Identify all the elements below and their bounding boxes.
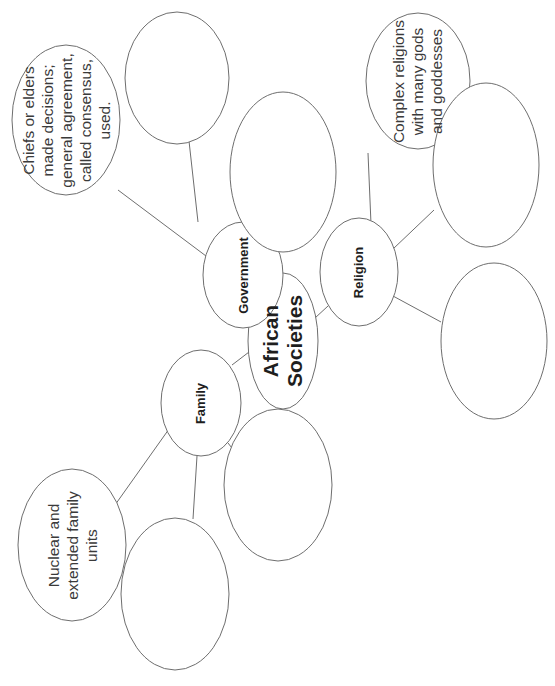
fam-detail-1-line: units bbox=[82, 491, 101, 600]
family-label: Family bbox=[194, 382, 209, 423]
center-label-line-1: African bbox=[259, 295, 283, 387]
detail-node-fam-3[interactable] bbox=[224, 409, 332, 561]
link-religion-bottom bbox=[393, 296, 441, 322]
rel-detail-1-text: Complex religions with many gods and god… bbox=[389, 19, 446, 142]
center-label-wrap: African Societies bbox=[233, 321, 333, 361]
center-label-line-2: Societies bbox=[283, 295, 307, 387]
religion-label-wrap: Religion bbox=[309, 262, 409, 282]
gov-detail-1-line: made decisions; bbox=[37, 53, 56, 187]
detail-node-gov-3[interactable] bbox=[230, 92, 336, 252]
link-government-chiefs bbox=[118, 190, 206, 256]
fam-detail-1-wrap: Nuclear and extended family units bbox=[2, 515, 142, 575]
link-religion-complex bbox=[368, 153, 371, 224]
government-label-wrap: Government bbox=[193, 265, 293, 285]
rel-detail-1-line: with many gods bbox=[408, 19, 427, 142]
rel-detail-1-line: Complex religions bbox=[389, 19, 408, 142]
link-government-top bbox=[189, 141, 198, 222]
detail-node-gov-2[interactable] bbox=[125, 12, 229, 144]
gov-detail-1-text: Chiefs or elders made decisions; general… bbox=[18, 53, 113, 187]
link-family-nuclear bbox=[115, 429, 169, 505]
fam-detail-1-text: Nuclear and extended family units bbox=[44, 491, 101, 600]
rel-detail-1-wrap: Complex religions with many gods and god… bbox=[348, 51, 488, 111]
family-label-wrap: Family bbox=[151, 393, 251, 413]
link-family-bottom bbox=[193, 456, 197, 519]
fam-detail-1-line: Nuclear and bbox=[44, 491, 63, 600]
gov-detail-1-line: Chiefs or elders bbox=[18, 53, 37, 187]
center-label: African Societies bbox=[259, 295, 307, 387]
religion-label: Religion bbox=[352, 246, 367, 297]
rel-detail-1-line: and goddesses bbox=[427, 19, 446, 142]
detail-node-rel-3[interactable] bbox=[441, 263, 547, 419]
fam-detail-1-line: extended family bbox=[63, 491, 82, 600]
gov-detail-1-line: called consensus, bbox=[75, 53, 94, 187]
gov-detail-1-line: general agreement, bbox=[56, 53, 75, 187]
link-center-religion bbox=[315, 306, 328, 318]
link-religion-top-right bbox=[393, 210, 434, 249]
gov-detail-1-wrap: Chiefs or elders made decisions; general… bbox=[0, 72, 136, 168]
gov-detail-1-line: used. bbox=[94, 53, 113, 187]
government-label: Government bbox=[235, 237, 250, 314]
